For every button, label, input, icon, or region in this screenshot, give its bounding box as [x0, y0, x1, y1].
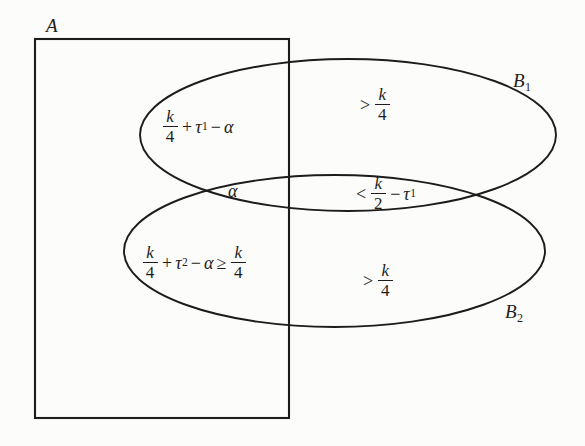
venn-diagram-figure: A B1 B2 k 4 + τ1 − α > k 4 α < k: [0, 0, 585, 446]
fraction-k-over-4: k 4: [163, 108, 178, 145]
operator-plus: +: [162, 254, 172, 272]
relation-greater-than: >: [360, 96, 370, 114]
operator-minus: −: [390, 185, 400, 203]
operator-plus: +: [182, 118, 192, 136]
alpha-symbol: α: [228, 182, 237, 200]
fraction-k-over-4: k 4: [143, 244, 158, 281]
fraction-k-over-4: k 4: [378, 262, 393, 299]
alpha-symbol: α: [224, 118, 233, 136]
set-b2-label: B2: [505, 302, 523, 324]
tau-symbol: τ: [403, 185, 409, 203]
fraction-k-over-2: k 2: [371, 175, 386, 212]
set-a-label: A: [46, 16, 58, 35]
tau-subscript: 2: [182, 257, 188, 269]
set-b1-label: B1: [513, 71, 531, 93]
set-b1-subscript: 1: [525, 80, 531, 94]
operator-minus: −: [211, 118, 221, 136]
region-expression-middle-left: α: [228, 182, 237, 200]
tau-symbol: τ: [195, 118, 201, 136]
relation-less-than: <: [356, 185, 366, 203]
relation-greater-than: >: [363, 272, 373, 290]
region-expression-top-left: k 4 + τ1 − α: [161, 108, 233, 145]
diagram-shapes: [0, 0, 585, 446]
set-a-rectangle: [35, 39, 289, 418]
tau-symbol: τ: [175, 254, 181, 272]
fraction-k-over-4: k 4: [375, 86, 390, 123]
relation-greater-equal: ≥: [216, 254, 226, 272]
region-expression-top-right: > k 4: [360, 86, 391, 123]
operator-minus: −: [191, 254, 201, 272]
fraction-k-over-4-right: k 4: [231, 244, 246, 281]
region-expression-bottom-left: k 4 + τ2 − α ≥ k 4: [141, 244, 247, 281]
tau-subscript: 1: [410, 188, 416, 200]
set-b2-subscript: 2: [517, 311, 523, 325]
region-expression-bottom-right: > k 4: [363, 262, 394, 299]
region-expression-middle-right: < k 2 − τ1: [356, 175, 416, 212]
tau-subscript: 1: [202, 121, 208, 133]
alpha-symbol: α: [204, 254, 213, 272]
